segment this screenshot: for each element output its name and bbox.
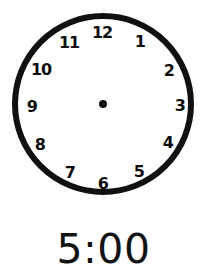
clock-worksheet: 12 1 2 3 4 5 6 7 8 9 10 11 5:00 — [0, 0, 207, 279]
clock-numeral-4: 4 — [163, 135, 174, 151]
clock-numeral-1: 1 — [135, 34, 146, 50]
clock-numeral-5: 5 — [134, 164, 145, 180]
clock-numeral-10: 10 — [31, 62, 51, 78]
clock-figure: 12 1 2 3 4 5 6 7 8 9 10 11 — [0, 0, 207, 208]
clock-numeral-7: 7 — [65, 165, 76, 181]
clock-numeral-12: 12 — [92, 25, 112, 41]
clock-numeral-3: 3 — [175, 98, 186, 114]
clock-numeral-11: 11 — [59, 35, 79, 51]
digital-time-readout: 5:00 — [0, 226, 207, 272]
center-pivot-dot — [99, 100, 107, 108]
clock-numeral-9: 9 — [27, 99, 38, 115]
clock-numeral-2: 2 — [164, 63, 175, 79]
clock-numeral-8: 8 — [35, 137, 46, 153]
clock-numeral-6: 6 — [98, 176, 109, 192]
